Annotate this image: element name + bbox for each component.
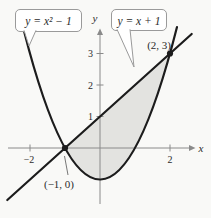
y-tick-label-3: 3: [88, 48, 93, 59]
point-label-2-3: (2, 3): [147, 39, 171, 52]
intersection-dot-right: [167, 50, 173, 56]
y-axis-label: y: [92, 12, 98, 24]
y-tick-label-1: 1: [88, 111, 93, 122]
y-tick-label-2: 2: [88, 80, 93, 91]
function-graph-figure: −2 2 x 1 2 3 y (2, 3) (−1, 0): [0, 0, 211, 218]
callout-parabola-label: y = x² − 1: [24, 15, 71, 28]
point-label-neg1-0: (−1, 0): [44, 178, 74, 191]
plot-canvas: −2 2 x 1 2 3 y (2, 3) (−1, 0): [0, 0, 211, 218]
x-tick-label-neg2: −2: [24, 154, 35, 165]
x-axis-label: x: [198, 142, 204, 154]
x-tick-label-pos2: 2: [168, 154, 173, 165]
callout-line-label: y = x + 1: [117, 15, 161, 28]
intersection-dot-left: [62, 145, 68, 151]
